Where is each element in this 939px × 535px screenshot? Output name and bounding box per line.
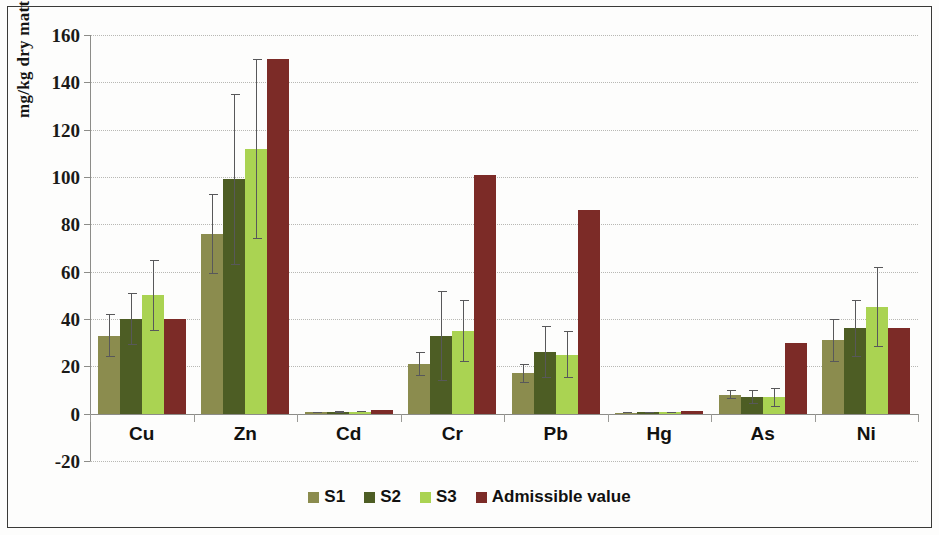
error-bar (730, 390, 731, 399)
error-bar-cap-bottom (128, 344, 137, 345)
y-axis-label: 0 (20, 405, 80, 424)
x-axis-label: Cu (90, 423, 194, 445)
error-bar-cap-top (128, 293, 137, 294)
x-axis-tick (194, 414, 195, 422)
gridline (90, 130, 918, 131)
error-bar (316, 412, 317, 413)
error-bar (212, 194, 213, 274)
y-axis-label: 40 (20, 310, 80, 329)
bar-admissible-value-cu (164, 319, 186, 414)
x-axis-label: Pb (504, 423, 608, 445)
x-axis-tick (608, 414, 609, 422)
gridline (90, 461, 918, 462)
y-axis-label: 120 (20, 121, 80, 140)
gridline (90, 82, 918, 83)
error-bar-cap-top (749, 390, 758, 391)
error-bar (523, 364, 524, 383)
x-axis-label: As (711, 423, 815, 445)
error-bar-cap-bottom (727, 398, 736, 399)
error-bar-cap-bottom (852, 356, 861, 357)
error-bar-cap-bottom (667, 412, 676, 413)
error-bar (774, 388, 775, 407)
error-bar-cap-bottom (253, 238, 262, 239)
error-bar-cap-bottom (771, 406, 780, 407)
error-bar (338, 411, 339, 413)
legend-item: S2 (364, 487, 401, 507)
y-axis-label: 80 (20, 215, 80, 234)
error-bar (441, 291, 442, 381)
x-axis-tick (711, 414, 712, 422)
error-bar-cap-bottom (357, 411, 366, 412)
error-bar-cap-top (209, 194, 218, 195)
error-bar-cap-bottom (106, 356, 115, 357)
error-bar-cap-bottom (231, 264, 240, 265)
error-bar-cap-bottom (520, 382, 529, 383)
x-axis-tick (918, 414, 919, 422)
legend-label: S1 (324, 487, 345, 507)
error-bar-cap-bottom (438, 380, 447, 381)
error-bar-cap-bottom (564, 377, 573, 378)
error-bar-cap-bottom (416, 375, 425, 376)
gridline (90, 177, 918, 178)
error-bar-cap-top (771, 388, 780, 389)
x-axis-label: Ni (814, 423, 918, 445)
error-bar-cap-bottom (542, 377, 551, 378)
bar-admissible-value-cd (371, 410, 393, 414)
y-axis-label: 160 (20, 26, 80, 45)
error-bar-cap-bottom (209, 273, 218, 274)
error-bar (256, 59, 257, 239)
legend-item: S3 (420, 487, 457, 507)
error-bar-cap-bottom (645, 412, 654, 413)
bar-admissible-value-cr (474, 175, 496, 414)
x-axis-tick (401, 414, 402, 422)
x-axis-tick (90, 414, 91, 422)
legend-label: Admissible value (492, 487, 631, 507)
error-bar (855, 300, 856, 357)
error-bar-cap-top (520, 364, 529, 365)
x-axis-tick (297, 414, 298, 422)
bar-admissible-value-pb (578, 210, 600, 414)
legend-swatch (308, 492, 319, 503)
error-bar (877, 267, 878, 347)
bar-admissible-value-hg (681, 411, 703, 413)
legend-swatch (364, 492, 375, 503)
error-bar-cap-bottom (313, 412, 322, 413)
legend-item: S1 (308, 487, 345, 507)
error-bar-cap-top (106, 314, 115, 315)
error-bar (360, 411, 361, 413)
legend-item: Admissible value (476, 487, 631, 507)
error-bar (463, 300, 464, 362)
error-bar-cap-bottom (874, 346, 883, 347)
error-bar (752, 390, 753, 404)
y-axis-label: 60 (20, 263, 80, 282)
y-axis-label: 140 (20, 73, 80, 92)
legend-swatch (476, 492, 487, 503)
x-axis-label: Zn (193, 423, 297, 445)
error-bar (109, 314, 110, 357)
error-bar-cap-top (150, 260, 159, 261)
error-bar-cap-top (253, 59, 262, 60)
x-axis-label: Hg (607, 423, 711, 445)
error-bar-cap-bottom (460, 361, 469, 362)
error-bar (648, 412, 649, 413)
error-bar-cap-bottom (623, 412, 632, 413)
x-axis-tick (815, 414, 816, 422)
error-bar (545, 326, 546, 378)
error-bar (626, 412, 627, 413)
x-axis-label: Cd (297, 423, 401, 445)
error-bar-cap-top (564, 331, 573, 332)
x-axis-tick (504, 414, 505, 422)
error-bar-cap-top (542, 326, 551, 327)
error-bar (234, 94, 235, 264)
chart-legend: S1S2S3Admissible value (0, 487, 939, 507)
y-axis-label: 100 (20, 168, 80, 187)
error-bar (153, 260, 154, 331)
y-axis-title: mg/kg dry matter (14, 88, 34, 118)
chart-figure: mg/kg dry matter S1S2S3Admissible value … (0, 0, 939, 535)
error-bar (131, 293, 132, 345)
error-bar-cap-top (830, 319, 839, 320)
error-bar-cap-top (438, 291, 447, 292)
error-bar (567, 331, 568, 378)
legend-swatch (420, 492, 431, 503)
x-axis-label: Cr (400, 423, 504, 445)
